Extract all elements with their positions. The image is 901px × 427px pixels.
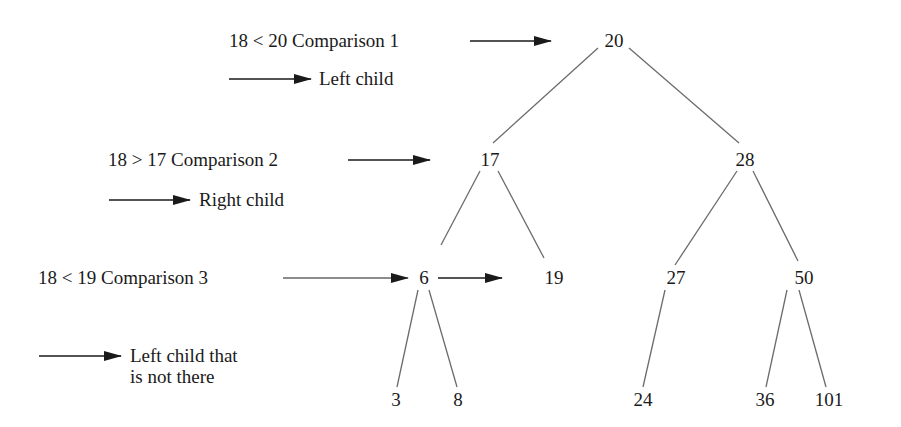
comparison-2-label: 18 > 17 Comparison 2 <box>108 149 278 171</box>
edge-27-24 <box>643 290 665 387</box>
node-101: 101 <box>815 389 844 411</box>
edge-6-3 <box>397 290 418 387</box>
edge-50-36 <box>766 290 787 387</box>
edge-17-19 <box>498 171 544 258</box>
comparison-1-result: Left child <box>319 68 393 90</box>
comparison-3-result-line2: is not there <box>130 366 214 388</box>
node-8: 8 <box>453 389 463 411</box>
node-50: 50 <box>795 267 814 289</box>
edge-6-8 <box>429 290 457 387</box>
edge-28-50 <box>753 171 798 261</box>
edge-20-17 <box>493 48 598 143</box>
node-6: 6 <box>419 267 429 289</box>
node-28: 28 <box>736 149 755 171</box>
node-3: 3 <box>391 389 401 411</box>
comparison-1-label: 18 < 20 Comparison 1 <box>229 30 399 52</box>
node-27: 27 <box>667 267 686 289</box>
comparison-3-result-line1: Left child that <box>130 345 238 367</box>
node-19: 19 <box>545 267 564 289</box>
edge-50-101 <box>799 290 826 387</box>
comparison-2-result: Right child <box>199 189 284 211</box>
node-36: 36 <box>756 389 775 411</box>
node-24: 24 <box>634 389 653 411</box>
node-17: 17 <box>481 149 500 171</box>
edge-20-28 <box>629 48 739 143</box>
edge-28-27 <box>675 171 737 265</box>
edge-17-6 <box>441 171 480 245</box>
comparison-3-label: 18 < 19 Comparison 3 <box>38 267 208 289</box>
node-root: 20 <box>605 30 624 52</box>
